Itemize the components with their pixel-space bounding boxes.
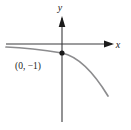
y-axis-arrow-icon	[59, 16, 66, 27]
y-intercept-point	[59, 50, 64, 55]
intercept-coordinate-label: (0, −1)	[15, 61, 41, 72]
coordinate-plane: y x (0, −1)	[0, 0, 131, 130]
x-axis-label: x	[115, 39, 121, 50]
curve-path	[6, 47, 108, 96]
x-axis-arrow-icon	[104, 41, 114, 48]
graph-figure: y x (0, −1)	[0, 0, 131, 130]
y-axis-label: y	[57, 2, 63, 13]
